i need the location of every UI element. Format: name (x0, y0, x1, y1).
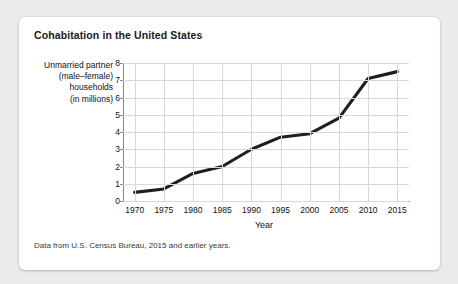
y-tick-mark (120, 80, 123, 81)
y-tick-label: 6 (115, 93, 120, 103)
y-tick-mark (120, 201, 123, 202)
y-tick-mark (120, 63, 123, 64)
y-tick-label: 4 (115, 127, 120, 137)
x-tick-label: 1990 (242, 205, 261, 215)
gridline-vertical (251, 63, 252, 201)
x-tick-label: 2005 (329, 205, 348, 215)
gridline-horizontal (123, 149, 409, 150)
y-axis-title-line-2: (male–female) (27, 71, 113, 82)
y-tick-label: 3 (115, 144, 120, 154)
gridline-horizontal (123, 184, 409, 185)
x-tick-label: 1985 (213, 205, 232, 215)
gridline-vertical (310, 63, 311, 201)
y-axis-title-line-3: households (27, 82, 113, 93)
gridline-horizontal (123, 80, 409, 81)
y-tick-mark (120, 98, 123, 99)
gridline-horizontal (123, 167, 409, 168)
x-tick-label: 2015 (388, 205, 407, 215)
gridline-vertical (193, 63, 194, 201)
y-tick-mark (120, 149, 123, 150)
y-tick-label: 1 (115, 179, 120, 189)
gridline-horizontal (123, 115, 409, 116)
gridline-vertical (339, 63, 340, 201)
gridline-vertical (164, 63, 165, 201)
y-tick-label: 2 (115, 162, 120, 172)
x-tick-label: 1995 (271, 205, 290, 215)
chart-grid: 0123456781970197519801985199019952000200… (123, 63, 409, 201)
gridline-horizontal (123, 98, 409, 99)
x-tick-label: 2000 (300, 205, 319, 215)
y-tick-label: 8 (115, 58, 120, 68)
y-tick-label: 7 (115, 75, 120, 85)
y-tick-mark (120, 132, 123, 133)
x-tick-label: 1970 (125, 205, 144, 215)
y-tick-mark (120, 115, 123, 116)
gridline-vertical (368, 63, 369, 201)
gridline-horizontal (123, 132, 409, 133)
x-tick-label: 1980 (184, 205, 203, 215)
chart-plot-area: Unmarried partner (male–female) househol… (19, 17, 440, 270)
gridline-horizontal (123, 201, 409, 202)
gridline-vertical (397, 63, 398, 201)
y-tick-label: 0 (115, 196, 120, 206)
figure-caption: Data from U.S. Census Bureau, 2015 and e… (34, 241, 231, 250)
x-tick-label: 1975 (154, 205, 173, 215)
y-tick-mark (120, 184, 123, 185)
x-axis-title: Year (119, 220, 409, 230)
y-tick-mark (120, 167, 123, 168)
figure-card: Cohabitation in the United States Unmarr… (19, 17, 440, 270)
y-axis-title-line-1: Unmarried partner (27, 60, 113, 71)
gridline-vertical (135, 63, 136, 201)
y-axis-title-line-4: (in millions) (27, 94, 113, 105)
y-axis-title: Unmarried partner (male–female) househol… (27, 60, 113, 105)
y-tick-label: 5 (115, 110, 120, 120)
gridline-horizontal (123, 63, 409, 64)
gridline-vertical (281, 63, 282, 201)
x-tick-label: 2010 (359, 205, 378, 215)
gridline-vertical (222, 63, 223, 201)
